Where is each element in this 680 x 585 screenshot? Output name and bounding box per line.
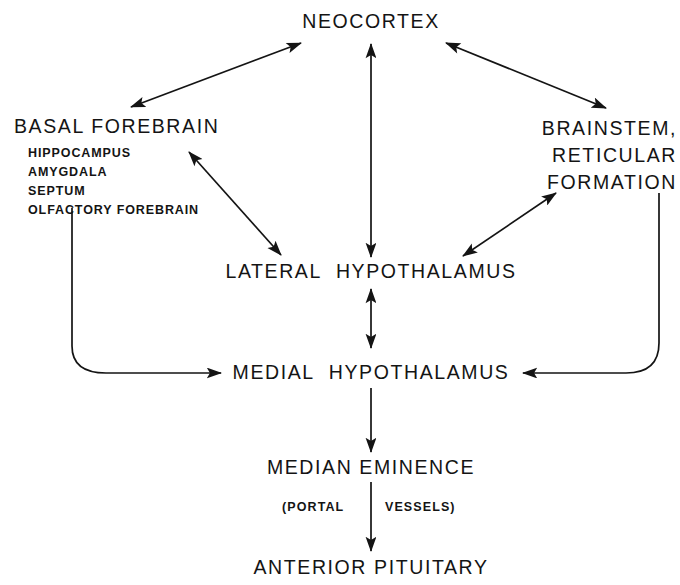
portal-vessels-right-label: VESSELS) — [385, 500, 456, 514]
node-medial-hypothalamus-word1: MEDIAL — [233, 361, 315, 383]
node-lateral-hypothalamus-word2: HYPOTHALAMUS — [336, 260, 517, 282]
node-lateral-hypothalamus: LATERALHYPOTHALAMUS — [225, 260, 516, 283]
list-item: SEPTUM — [28, 182, 199, 201]
node-portal-vessels-left: (PORTAL — [282, 500, 344, 514]
node-anterior-pituitary: ANTERIOR PITUITARY — [253, 556, 488, 579]
node-medial-hypothalamus-word2: HYPOTHALAMUS — [329, 361, 510, 383]
node-median-eminence-label: MEDIAN EMINENCE — [267, 456, 475, 478]
node-brainstem-line2: RETICULAR — [542, 142, 677, 169]
node-portal-vessels-right: VESSELS) — [385, 500, 456, 514]
portal-vessels-left-label: (PORTAL — [282, 500, 344, 514]
list-item: OLFACTORY FOREBRAIN — [28, 201, 199, 220]
node-basal-forebrain-items: HIPPOCAMPUS AMYGDALA SEPTUM OLFACTORY FO… — [28, 144, 199, 220]
list-item: AMYGDALA — [28, 163, 199, 182]
edges-layer — [0, 0, 680, 585]
node-neocortex: NEOCORTEX — [302, 10, 440, 33]
node-neocortex-label: NEOCORTEX — [302, 10, 440, 32]
node-median-eminence: MEDIAN EMINENCE — [267, 456, 475, 479]
edge-basal-forebrain-lateral-hypothalamus — [189, 152, 281, 255]
node-anterior-pituitary-label: ANTERIOR PITUITARY — [253, 556, 488, 578]
node-basal-forebrain-title: BASAL FOREBRAIN — [14, 115, 219, 138]
node-brainstem: BRAINSTEM, RETICULAR FORMATION — [542, 115, 677, 196]
edge-basal-forebrain-medial-hypothalamus — [72, 208, 221, 373]
edge-medial-hypothalamus-brainstem — [523, 193, 659, 373]
edge-neocortex-brainstem — [446, 43, 606, 108]
node-brainstem-line3: FORMATION — [542, 169, 677, 196]
node-lateral-hypothalamus-word1: LATERAL — [225, 260, 321, 282]
node-brainstem-line1: BRAINSTEM, — [542, 115, 677, 142]
node-basal-forebrain-label: BASAL FOREBRAIN — [14, 115, 219, 137]
diagram-canvas: NEOCORTEX BASAL FOREBRAIN HIPPOCAMPUS AM… — [0, 0, 680, 585]
edge-neocortex-basal-forebrain — [131, 43, 301, 107]
edge-brainstem-lateral-hypothalamus — [463, 193, 556, 256]
list-item: HIPPOCAMPUS — [28, 144, 199, 163]
node-medial-hypothalamus: MEDIALHYPOTHALAMUS — [233, 361, 510, 384]
